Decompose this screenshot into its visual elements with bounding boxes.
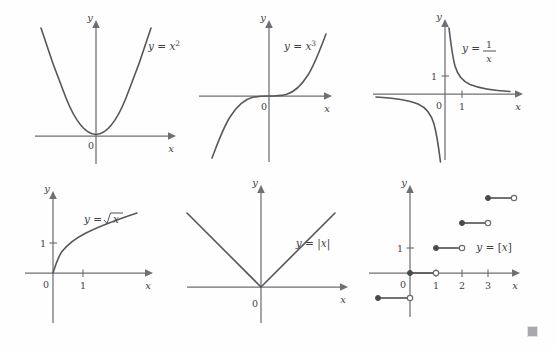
open-endpoint — [407, 295, 412, 300]
y-axis-label: y — [43, 183, 50, 194]
function-label-sqrt: y = x — [83, 213, 123, 225]
y-axis-arrow — [265, 20, 273, 28]
x-axis-arrow — [340, 283, 348, 291]
x-axis-label: x — [168, 143, 174, 154]
origin-label: 0 — [261, 101, 267, 112]
x-axis-label: x — [340, 294, 346, 305]
step-segment-2 — [460, 220, 491, 225]
panel-absolute-value: y x 0 y = |x| — [185, 175, 371, 349]
open-endpoint — [433, 270, 438, 275]
x-axis-arrow — [324, 92, 332, 100]
curve-absolute-left — [187, 213, 261, 287]
y-axis-label: y — [435, 11, 442, 22]
x-axis-label: x — [324, 103, 330, 114]
y-axis-label: y — [400, 177, 407, 188]
x-axis-arrow — [515, 90, 523, 98]
y-axis-arrow — [92, 20, 100, 28]
panel-parabola: y x 0 y = x2 — [0, 0, 186, 175]
x-axis-label: x — [145, 280, 151, 291]
reciprocal-numerator: 1 — [486, 39, 492, 50]
sqrt-prefix: y = — [83, 213, 102, 225]
x-tick-label-1: 1 — [80, 280, 86, 291]
panel-floor: y x 0 1 2 3 1 y = [x] — [366, 175, 552, 349]
y-tick-label-1: 1 — [40, 238, 46, 249]
function-label-floor: y = [x] — [475, 241, 512, 253]
function-label-reciprocal: y = 1 x — [461, 39, 496, 64]
x-tick-label-2: 2 — [459, 280, 465, 291]
sqrt-radicand: x — [113, 213, 119, 225]
y-axis-arrow — [49, 191, 57, 199]
y-axis-arrow — [406, 185, 414, 193]
closed-endpoint — [434, 246, 439, 251]
panel-sqrt: y x 0 1 1 y = x — [0, 175, 186, 349]
svg-text:y = x2: y = x2 — [147, 39, 180, 52]
origin-label: 0 — [400, 279, 406, 290]
panel-cubic: y x 0 y = x3 — [186, 0, 372, 175]
step-segment-0 — [408, 270, 439, 275]
closed-endpoint — [408, 271, 413, 276]
function-label-parabola: y = x2 — [147, 39, 180, 52]
x-axis-arrow — [512, 269, 520, 277]
open-endpoint — [511, 195, 516, 200]
function-label-cubic: y = x3 — [283, 39, 316, 52]
x-axis-label: x — [512, 280, 518, 291]
y-axis-arrow — [441, 19, 449, 27]
y-axis-label: y — [86, 12, 93, 23]
x-tick-label-3: 3 — [485, 280, 491, 291]
origin-label: 0 — [88, 140, 94, 151]
curve-absolute-right — [261, 213, 335, 287]
curve-reciprocal-negative — [376, 97, 441, 162]
figure-sheet: y x 0 y = x2 y x 0 y = x3 — [0, 0, 556, 349]
closed-endpoint — [486, 196, 491, 201]
open-endpoint — [485, 220, 490, 225]
reciprocal-denominator: x — [486, 53, 492, 64]
open-endpoint — [459, 245, 464, 250]
x-tick-label-1: 1 — [433, 280, 439, 291]
x-axis-arrow — [168, 132, 176, 140]
origin-label: 0 — [436, 100, 442, 111]
step-segment-1 — [434, 245, 465, 250]
closed-endpoint — [460, 221, 465, 226]
y-tick-label-1: 1 — [431, 71, 437, 82]
origin-label: 0 — [252, 298, 258, 309]
x-axis-label: x — [515, 101, 521, 112]
y-axis-label: y — [251, 177, 258, 188]
step-segment-3 — [486, 195, 517, 200]
corner-mark-icon — [527, 326, 538, 337]
function-label-absolute: y = |x| — [295, 237, 330, 251]
panel-reciprocal: y x 0 1 1 y = 1 x — [370, 0, 556, 175]
y-axis-arrow — [257, 185, 265, 193]
step-segment-minus1 — [376, 295, 413, 300]
closed-endpoint — [376, 296, 381, 301]
curve-reciprocal-positive — [449, 28, 510, 92]
y-tick-label-1: 1 — [397, 243, 403, 254]
y-axis-label: y — [259, 12, 266, 23]
x-axis-arrow — [145, 269, 153, 277]
svg-text:y = x3: y = x3 — [283, 39, 316, 52]
reciprocal-prefix: y = — [461, 42, 480, 54]
x-tick-label-1: 1 — [459, 101, 465, 112]
origin-label: 0 — [43, 279, 49, 290]
